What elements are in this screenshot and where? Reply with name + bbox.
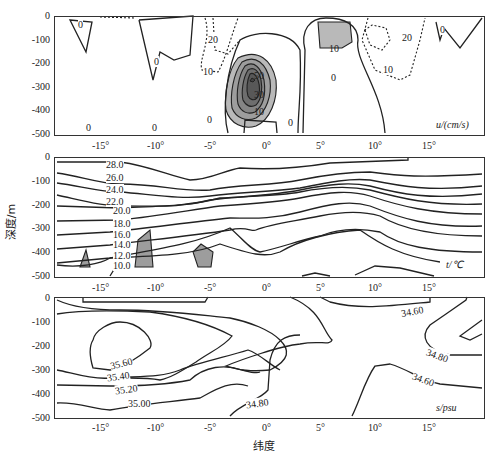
x-ticks-u: -15° -10° -5° 0° 5° 10° 15° — [0, 140, 496, 152]
contour-label: 0 — [86, 122, 91, 133]
x-tick: -15° — [92, 140, 109, 151]
y-ticks-u: 0 -100 -200 -300 -400 -500 — [14, 10, 50, 140]
y-tick: -500 — [14, 270, 50, 282]
y-tick: -400 — [14, 388, 50, 412]
y-tick: 0 — [14, 292, 50, 316]
x-tick: -10° — [147, 140, 164, 151]
contour-label: 20 — [402, 32, 412, 43]
y-tick: -100 — [14, 175, 50, 199]
contour-label: 50 — [254, 70, 264, 81]
s-variable-label: s/psu — [436, 402, 457, 413]
x-tick: 15° — [422, 422, 436, 433]
y-tick: -200 — [14, 199, 50, 223]
x-ticks-s: -15° -10° -5° 0° 5° 10° 15° — [0, 422, 496, 434]
x-tick: 5° — [316, 282, 325, 293]
y-tick: -300 — [14, 364, 50, 388]
y-axis-title: 深度/m — [2, 204, 18, 240]
y-tick: -300 — [14, 81, 50, 105]
contour-label: 35.00 — [128, 398, 151, 409]
contour-label: 20.0 — [113, 205, 131, 216]
x-axis-title: 纬度 — [253, 437, 275, 453]
x-tick: 5° — [316, 422, 325, 433]
x-tick: 0° — [262, 140, 271, 151]
contour-label: 0 — [78, 19, 83, 30]
x-tick: 0° — [262, 422, 271, 433]
contour-label: 10 — [203, 66, 213, 77]
x-tick: 5° — [316, 140, 325, 151]
contour-label: 0 — [207, 114, 212, 125]
axes-overlay: 0 -100 -200 -300 -400 -500 0 -100 -200 -… — [0, 0, 496, 458]
x-tick: -15° — [92, 282, 109, 293]
u-variable-label: u/(cm/s) — [436, 119, 469, 130]
contour-label: 28.0 — [106, 159, 124, 170]
t-variable-label: t/℃ — [446, 259, 463, 270]
y-tick: -400 — [14, 104, 50, 128]
y-tick: 0 — [14, 151, 50, 175]
x-ticks-t: -15° -10° -5° 0° 5° 10° 15° — [0, 282, 496, 294]
contour-label: 0 — [331, 72, 336, 83]
contour-label: 24.0 — [106, 184, 124, 195]
x-tick: 0° — [262, 282, 271, 293]
contour-label: 10 — [254, 106, 264, 117]
contour-label: 0 — [154, 56, 159, 67]
contour-label: 18.0 — [113, 218, 131, 229]
x-tick: -5° — [204, 422, 216, 433]
contour-label: 20 — [208, 34, 218, 45]
contour-label: 14.0 — [113, 239, 131, 250]
contour-label: 0 — [440, 24, 445, 35]
contour-label: 10 — [383, 64, 393, 75]
y-tick: -200 — [14, 57, 50, 81]
contour-label: 0 — [152, 122, 157, 133]
y-tick: 0 — [14, 10, 50, 34]
y-ticks-t: 0 -100 -200 -300 -400 -500 — [14, 151, 50, 282]
x-tick: 10° — [368, 422, 382, 433]
y-tick: -100 — [14, 316, 50, 340]
x-tick: -5° — [204, 140, 216, 151]
x-tick: -5° — [204, 282, 216, 293]
contour-label: 26.0 — [106, 172, 124, 183]
y-tick: -200 — [14, 340, 50, 364]
x-tick: -10° — [147, 282, 164, 293]
contour-label: 0 — [288, 117, 293, 128]
x-tick: 10° — [368, 140, 382, 151]
x-tick: -10° — [147, 422, 164, 433]
contour-label: 30 — [254, 89, 264, 100]
y-tick: -300 — [14, 222, 50, 246]
x-tick: -15° — [92, 422, 109, 433]
x-tick: 10° — [368, 282, 382, 293]
contour-label: 10 — [329, 43, 339, 54]
y-ticks-s: 0 -100 -200 -300 -400 -500 — [14, 292, 50, 424]
x-tick: 15° — [422, 282, 436, 293]
x-tick: 15° — [422, 140, 436, 151]
y-tick: -500 — [14, 128, 50, 140]
panel-u-frame — [54, 16, 485, 136]
contour-label: 10.0 — [113, 260, 131, 271]
y-tick: -100 — [14, 34, 50, 58]
y-tick: -400 — [14, 246, 50, 270]
